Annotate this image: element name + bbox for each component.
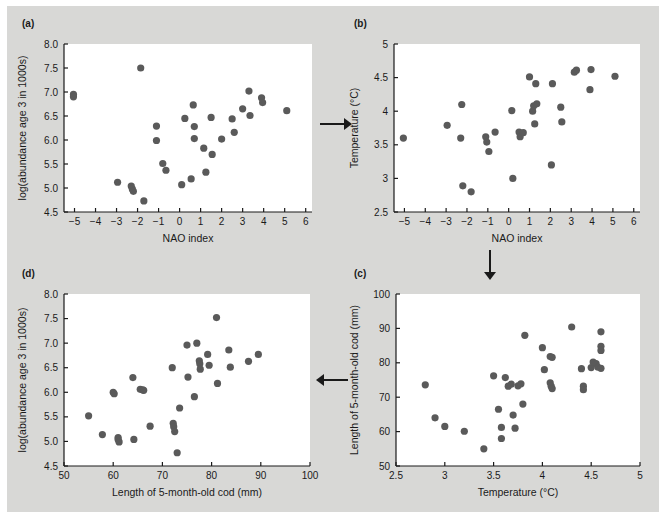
- data-point: [85, 412, 92, 419]
- plot-area: [396, 294, 640, 466]
- x-axis-title: NAO index: [492, 232, 544, 244]
- data-point: [130, 188, 137, 195]
- data-point: [227, 364, 234, 371]
- data-point: [568, 323, 575, 330]
- data-point: [129, 374, 136, 381]
- data-point: [539, 344, 546, 351]
- y-tick-label: 4.5: [44, 461, 58, 472]
- data-point: [587, 66, 594, 73]
- x-tick-label: 100: [302, 470, 319, 481]
- x-tick-label: 4: [540, 470, 546, 481]
- data-point: [573, 67, 580, 74]
- data-point: [459, 182, 466, 189]
- y-tick-label: 70: [379, 392, 391, 403]
- data-point: [162, 167, 169, 174]
- y-tick-label: 7.0: [44, 338, 58, 349]
- figure-margin-left: [0, 0, 7, 519]
- panel-d: (d) 4.55.05.56.06.57.07.58.0506070809010…: [14, 268, 334, 512]
- data-point: [114, 179, 121, 186]
- x-tick-label: 6: [303, 216, 309, 227]
- x-tick-label: 2: [219, 216, 225, 227]
- y-tick-label: 7.5: [44, 63, 58, 74]
- x-tick-label: 1: [527, 216, 533, 227]
- data-point: [178, 181, 185, 188]
- data-point: [191, 135, 198, 142]
- data-point: [208, 114, 215, 121]
- data-point: [400, 134, 407, 141]
- data-point: [190, 101, 197, 108]
- figure-margin-bottom: [0, 512, 665, 519]
- y-tick-label: 3.5: [374, 139, 388, 150]
- y-tick-label: 2.5: [374, 207, 388, 218]
- x-tick-label: 90: [255, 470, 267, 481]
- x-tick-label: 4: [589, 216, 595, 227]
- y-tick-label: 5.5: [44, 411, 58, 422]
- data-point: [492, 128, 499, 135]
- x-tick-label: 5: [637, 470, 643, 481]
- x-tick-label: 3.5: [487, 470, 501, 481]
- y-tick-label: 5.0: [44, 436, 58, 447]
- data-point: [174, 449, 181, 456]
- x-tick-label: 3: [240, 216, 246, 227]
- data-point: [441, 423, 448, 430]
- panel-d-plot: 4.55.05.56.06.57.07.58.05060708090100Len…: [14, 282, 334, 508]
- data-point: [159, 160, 166, 167]
- data-point: [531, 120, 538, 127]
- data-point: [458, 101, 465, 108]
- data-point: [431, 414, 438, 421]
- data-point: [70, 93, 77, 100]
- arrow-b-to-c: [478, 248, 502, 282]
- x-tick-label: 4: [261, 216, 267, 227]
- data-point: [578, 365, 585, 372]
- x-tick-label: 3: [442, 470, 448, 481]
- y-tick-label: 8.0: [44, 39, 58, 50]
- data-point: [548, 161, 555, 168]
- data-point: [204, 351, 211, 358]
- data-point: [130, 436, 137, 443]
- data-point: [111, 390, 118, 397]
- data-point: [597, 365, 604, 372]
- data-point: [468, 188, 475, 195]
- x-tick-label: −2: [132, 216, 144, 227]
- x-tick-label: 70: [157, 470, 169, 481]
- data-point: [283, 107, 290, 114]
- data-point: [498, 424, 505, 431]
- data-point: [597, 328, 604, 335]
- data-point: [188, 175, 195, 182]
- arrow-c-to-d: [312, 368, 350, 392]
- data-point: [231, 129, 238, 136]
- data-point: [508, 381, 515, 388]
- panel-c-plot: 50607080901002.533.544.55Temperature (°C…: [346, 282, 662, 508]
- panel-a-label: (a): [22, 18, 34, 29]
- x-tick-label: −4: [90, 216, 102, 227]
- data-point: [541, 366, 548, 373]
- data-point: [558, 118, 565, 125]
- x-tick-label: −1: [153, 216, 165, 227]
- x-tick-label: 0: [177, 216, 183, 227]
- y-tick-label: 90: [379, 323, 391, 334]
- data-point: [193, 340, 200, 347]
- data-point: [259, 99, 266, 106]
- data-point: [200, 145, 207, 152]
- y-tick-label: 5.5: [44, 159, 58, 170]
- data-point: [508, 107, 515, 114]
- data-point: [225, 346, 232, 353]
- plot-area: [64, 44, 312, 212]
- y-tick-label: 60: [379, 426, 391, 437]
- x-axis-title: Temperature (°C): [478, 486, 559, 498]
- data-point: [532, 80, 539, 87]
- data-point: [191, 393, 198, 400]
- data-point: [480, 445, 487, 452]
- arrow-a-to-b: [318, 112, 354, 136]
- data-point: [197, 366, 204, 373]
- data-point: [184, 373, 191, 380]
- data-point: [246, 112, 253, 119]
- figure-margin-top: [0, 0, 665, 6]
- y-tick-label: 3: [382, 173, 388, 184]
- data-point: [169, 364, 176, 371]
- panel-a: (a) 4.55.05.56.06.57.07.58.0−5−4−3−2−101…: [14, 18, 334, 258]
- data-point: [444, 122, 451, 129]
- x-axis-title: Length of 5-month-old cod (mm): [112, 486, 262, 498]
- data-point: [549, 80, 556, 87]
- data-point: [526, 73, 533, 80]
